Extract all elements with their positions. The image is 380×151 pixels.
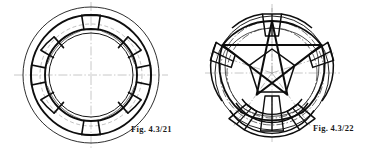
divider <box>32 82 46 85</box>
keystone-cap <box>82 15 101 16</box>
keystone-cap <box>150 65 151 85</box>
divider <box>82 121 84 135</box>
drawing-plate: Fig. 4.3/21 Fig. 4.3/22 <box>0 0 380 151</box>
divider <box>98 121 100 135</box>
divider <box>137 65 151 68</box>
keystone-cap <box>31 65 32 85</box>
divider <box>98 15 100 29</box>
divider <box>137 82 151 85</box>
keystone-cap <box>82 135 101 136</box>
figure-caption-right: Fig. 4.3/22 <box>313 123 354 133</box>
divider <box>82 15 84 29</box>
divider <box>32 65 46 68</box>
figure-caption-left: Fig. 4.3/21 <box>131 124 172 134</box>
figure-right-pentagonal-star <box>205 4 340 142</box>
